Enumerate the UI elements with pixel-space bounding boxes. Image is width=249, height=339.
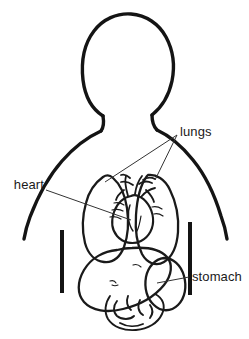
label-heart: heart: [14, 177, 44, 192]
label-lungs: lungs: [180, 124, 212, 139]
label-stomach: stomach: [192, 269, 242, 284]
anatomy-figure: lungs heart stomach: [0, 0, 249, 339]
anatomy-illustration: lungs heart stomach: [0, 0, 249, 339]
